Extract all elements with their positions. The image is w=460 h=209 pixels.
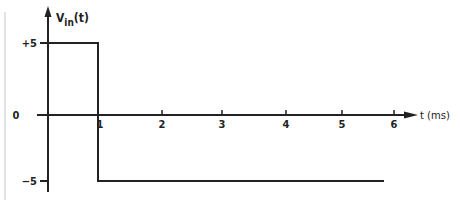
y-tick-label-minus5: −5 — [22, 175, 37, 188]
x-tick-label-3: 3 — [219, 118, 226, 131]
y-tick-label-plus5: +5 — [22, 37, 37, 50]
y-axis — [40, 6, 52, 192]
x-tick-label-1: 1 — [97, 118, 104, 131]
y-tick-label-zero: 0 — [13, 109, 20, 122]
x-axis-arrow-icon — [404, 112, 418, 119]
x-axis-label: t (ms) — [420, 110, 450, 121]
x-tick-label-2: 2 — [159, 118, 166, 131]
y-axis-label: Vin(t) — [56, 11, 89, 28]
x-tick-label-4: 4 — [283, 118, 290, 131]
x-axis — [37, 110, 418, 119]
vin-waveform — [48, 43, 384, 181]
waveform-chart: Vin(t) +5 0 −5 1 2 3 4 5 6 t (ms) — [0, 0, 460, 209]
y-axis-arrow-icon — [45, 6, 52, 17]
x-tick-label-5: 5 — [339, 118, 346, 131]
x-tick-label-6: 6 — [391, 118, 398, 131]
